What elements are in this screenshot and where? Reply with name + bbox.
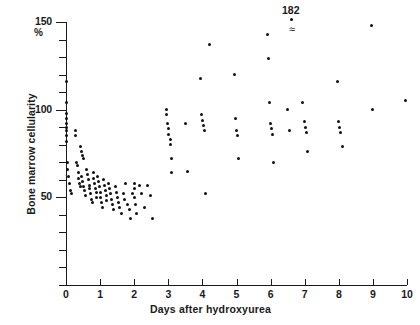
outlier-value-label: 182 <box>282 4 300 16</box>
x-axis-title: Days after hydroxyurea <box>150 303 271 315</box>
y-tick-120 <box>59 75 66 76</box>
y-tick-150 <box>56 22 66 23</box>
scatter-plot-figure: 50100150 012345678910 % Bone marrow cell… <box>0 0 420 325</box>
data-point <box>100 201 103 204</box>
x-tick-label-6: 6 <box>261 288 281 300</box>
data-point <box>134 203 137 206</box>
y-tick-label-150: 150 <box>0 15 52 27</box>
x-tick-label-10: 10 <box>397 288 417 300</box>
y-axis-unit-label: % <box>34 27 43 38</box>
data-point <box>237 157 240 160</box>
data-point <box>235 129 238 132</box>
x-tick-4 <box>202 279 203 285</box>
data-point <box>95 191 98 194</box>
data-point <box>169 138 172 141</box>
y-tick-130 <box>59 57 66 58</box>
data-point <box>81 180 84 183</box>
data-point <box>151 217 154 220</box>
data-point <box>170 157 173 160</box>
data-point <box>122 192 125 195</box>
data-point <box>286 108 289 111</box>
data-point <box>97 180 100 183</box>
data-point <box>99 196 102 199</box>
data-point <box>169 143 172 146</box>
data-point <box>208 43 211 46</box>
data-point <box>199 77 202 80</box>
y-tick-80 <box>59 145 66 146</box>
y-tick-50 <box>56 197 66 198</box>
data-point <box>135 212 138 215</box>
x-axis-line <box>66 285 407 286</box>
y-tick-0 <box>59 285 66 286</box>
data-point <box>114 185 117 188</box>
data-point <box>101 206 104 209</box>
x-tick-8 <box>339 279 340 285</box>
x-tick-label-7: 7 <box>295 288 315 300</box>
y-tick-30 <box>59 232 66 233</box>
data-point <box>77 171 80 174</box>
data-point <box>120 212 123 215</box>
data-point <box>80 175 83 178</box>
data-point <box>338 126 341 129</box>
data-point <box>140 192 143 195</box>
data-point <box>83 189 86 192</box>
data-point <box>67 175 70 178</box>
data-point <box>105 199 108 202</box>
data-point <box>267 57 270 60</box>
data-point <box>107 182 110 185</box>
data-point <box>404 99 407 102</box>
data-point <box>105 194 108 197</box>
data-point <box>85 168 88 171</box>
data-point <box>112 208 115 211</box>
data-point <box>200 113 203 116</box>
data-point <box>110 198 113 201</box>
data-point <box>133 196 136 199</box>
data-point <box>170 171 173 174</box>
data-point <box>301 101 304 104</box>
y-tick-20 <box>59 250 66 251</box>
data-point <box>118 206 121 209</box>
x-tick-label-0: 0 <box>56 288 76 300</box>
data-point <box>133 187 136 190</box>
data-point <box>94 187 97 190</box>
data-point <box>233 73 236 76</box>
data-point <box>96 175 99 178</box>
y-tick-40 <box>59 215 66 216</box>
data-point <box>68 182 71 185</box>
data-point <box>146 184 149 187</box>
data-point <box>95 196 98 199</box>
data-point <box>65 117 68 120</box>
data-point <box>65 140 68 143</box>
y-axis-title: Bone marrow cellularity <box>25 59 37 249</box>
data-point <box>166 122 169 125</box>
data-point <box>80 150 83 153</box>
data-point <box>86 173 89 176</box>
data-point <box>70 192 73 195</box>
y-tick-10 <box>59 267 66 268</box>
data-point <box>66 161 69 164</box>
data-point <box>76 164 79 167</box>
data-point <box>370 24 373 27</box>
data-point <box>143 206 146 209</box>
data-point <box>65 122 68 125</box>
data-point <box>82 185 85 188</box>
data-point <box>123 198 126 201</box>
data-point <box>66 168 69 171</box>
data-point <box>271 133 274 136</box>
x-tick-7 <box>305 279 306 285</box>
data-point <box>116 196 119 199</box>
x-tick-label-5: 5 <box>227 288 247 300</box>
data-point <box>306 150 309 153</box>
data-point <box>269 122 272 125</box>
data-point <box>102 178 105 181</box>
data-point <box>115 191 118 194</box>
data-point <box>89 192 92 195</box>
data-point <box>65 112 68 115</box>
data-point <box>65 80 68 83</box>
data-point <box>236 134 239 137</box>
data-point <box>303 120 306 123</box>
data-point <box>84 194 87 197</box>
data-point <box>108 187 111 190</box>
data-point <box>92 177 95 180</box>
data-point <box>165 108 168 111</box>
